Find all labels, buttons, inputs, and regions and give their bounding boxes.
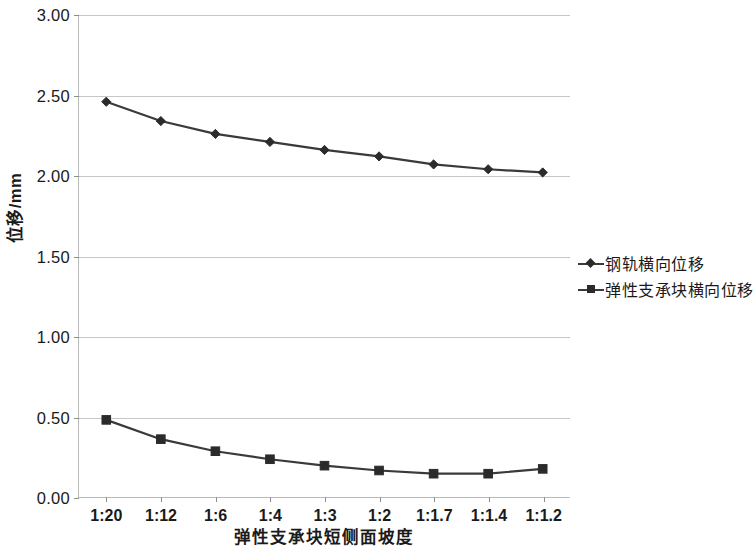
data-point-marker	[538, 465, 547, 474]
x-axis-tick	[161, 497, 162, 502]
data-point-marker	[375, 466, 384, 475]
x-axis-tick	[270, 497, 271, 502]
data-point-marker	[211, 129, 220, 138]
x-axis-tick	[216, 497, 217, 502]
y-axis-tick-label: 0.50	[37, 408, 70, 427]
legend-item-label: 钢轨横向位移	[605, 251, 704, 275]
y-axis-tick-label: 2.00	[37, 167, 70, 186]
x-axis-tick-label: 1:20	[90, 507, 122, 525]
y-axis-tick-label: 3.00	[37, 6, 70, 25]
data-point-marker	[320, 461, 329, 470]
y-axis-title: 位移/mm	[2, 148, 26, 268]
plot-area: 3.002.502.001.501.000.500.00 1:201:121:6…	[78, 15, 570, 498]
x-axis-tick	[434, 497, 435, 502]
x-axis-tick-label: 1:1.2	[525, 507, 561, 525]
legend-item[interactable]: 钢轨横向位移	[578, 250, 753, 276]
data-point-marker	[265, 137, 274, 146]
series-line	[106, 102, 542, 173]
x-axis-tick-label: 1:12	[145, 507, 177, 525]
x-axis-tick-label: 1:3	[313, 507, 336, 525]
data-point-marker	[211, 447, 220, 456]
x-axis-tick-label: 1:6	[204, 507, 227, 525]
x-axis-tick	[325, 497, 326, 502]
y-axis-tick-label: 1.00	[37, 328, 70, 347]
y-axis-tick-label: 2.50	[37, 86, 70, 105]
x-axis-tick	[544, 497, 545, 502]
data-point-marker	[374, 152, 383, 161]
x-axis-tick	[489, 497, 490, 502]
data-point-marker	[484, 165, 493, 174]
line-chart: 位移/mm 3.002.502.001.501.000.500.00 1:201…	[0, 0, 755, 553]
x-axis-tick-label: 1:2	[368, 507, 391, 525]
x-axis-tick-label: 1:1.7	[416, 507, 452, 525]
data-point-marker	[156, 116, 165, 125]
data-point-marker	[266, 455, 275, 464]
data-point-marker	[102, 97, 111, 106]
data-point-marker	[429, 160, 438, 169]
y-axis-tick-label: 1.50	[37, 247, 70, 266]
series-1	[102, 97, 548, 177]
data-point-marker	[484, 469, 493, 478]
legend-item[interactable]: 弹性支承块横向位移	[578, 276, 753, 302]
chart-legend: 钢轨横向位移弹性支承块横向位移	[578, 250, 753, 302]
legend-item-label: 弹性支承块横向位移	[605, 277, 754, 301]
data-point-marker	[102, 416, 111, 425]
data-point-marker	[157, 435, 166, 444]
x-axis-tick	[380, 497, 381, 502]
x-axis-tick	[106, 497, 107, 502]
data-point-marker	[429, 469, 438, 478]
data-point-marker	[320, 145, 329, 154]
x-axis-tick-label: 1:4	[259, 507, 282, 525]
y-axis-tick	[74, 498, 79, 499]
y-axis-tick-label: 0.00	[37, 489, 70, 508]
square-marker-icon	[578, 281, 604, 297]
series-plot	[79, 15, 570, 497]
data-point-marker	[538, 168, 547, 177]
x-axis-tick-label: 1:1.4	[471, 507, 507, 525]
diamond-marker-icon	[578, 255, 604, 271]
series-2	[102, 416, 547, 478]
x-axis-title: 弹性支承块短侧面坡度	[78, 524, 570, 548]
